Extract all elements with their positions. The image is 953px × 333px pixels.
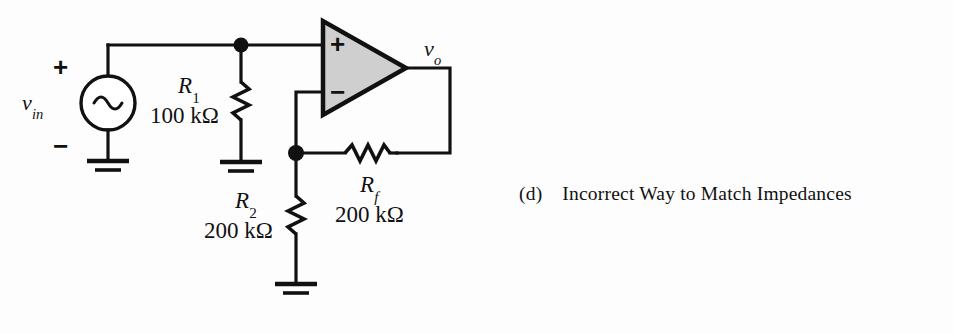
ground-symbol-r2	[275, 284, 317, 293]
figure-caption: (d)Incorrect Way to Match Impedances	[519, 183, 852, 205]
source-label: vin	[22, 92, 43, 118]
value-Rf: 200 kΩ	[335, 203, 404, 226]
source-plus-sign: +	[53, 54, 68, 80]
wire-source-to-noninverting-input	[108, 45, 323, 76]
source-label-sub: in	[32, 106, 43, 122]
value-R2: 200 kΩ	[204, 219, 273, 242]
caption-text: Incorrect Way to Match Impedances	[562, 183, 851, 204]
ground-symbol-source	[87, 161, 129, 170]
output-label-base: v	[424, 36, 434, 61]
label-R2: R2	[235, 189, 257, 216]
label-Rf-base: R	[360, 172, 374, 197]
output-label-sub: o	[434, 52, 441, 68]
ac-voltage-source	[81, 76, 135, 160]
source-label-base: v	[22, 90, 32, 115]
caption-marker: (d)	[519, 183, 542, 204]
resistor-Rf	[296, 145, 397, 161]
label-R2-base: R	[235, 188, 249, 213]
opamp-noninverting-sign: +	[330, 31, 345, 57]
ground-symbol-r1	[220, 162, 262, 171]
wire-inverting-input-to-node	[296, 92, 323, 153]
source-minus-sign: −	[53, 133, 68, 159]
resistor-R2	[288, 153, 304, 283]
circuit-figure: + vin − R1 100 kΩ R2 200 kΩ Rf 200 kΩ + …	[0, 0, 953, 333]
label-Rf: Rf	[360, 173, 378, 200]
wire-output-feedback	[397, 68, 450, 153]
value-R1: 100 kΩ	[150, 104, 219, 127]
label-R1: R1	[178, 74, 200, 101]
label-R1-base: R	[178, 73, 192, 98]
resistor-R1	[233, 45, 249, 161]
circuit-schematic-canvas	[0, 0, 953, 333]
opamp-inverting-sign: −	[330, 79, 345, 105]
output-label: vo	[424, 38, 441, 64]
